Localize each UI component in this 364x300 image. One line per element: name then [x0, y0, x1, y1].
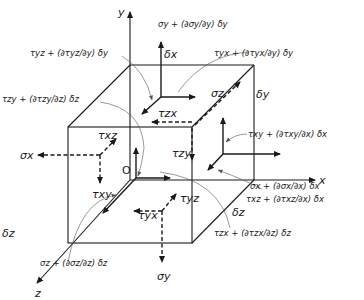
tau-yz-plus-label: τyz + (∂τyz/∂y) δy: [30, 48, 109, 58]
tau-yz-label: τyz: [180, 192, 199, 205]
tau-zy-plus-label: τzy + (∂τzy/∂z) δz: [2, 94, 79, 104]
tau-xy-label: τxy: [92, 188, 112, 201]
origin-label: O: [122, 164, 131, 177]
dx-label: δx: [164, 48, 178, 61]
stress-element-diagram: y x z O δx δy δz δz σx σy σz τxy τxz τyx…: [0, 0, 364, 300]
sigma-y-label: σy: [157, 270, 171, 283]
dy-label: δy: [256, 88, 270, 101]
tau-zy-label: τzy: [172, 147, 191, 160]
tau-zx-label: τzx: [158, 107, 177, 120]
tau-yx-plus-label: τyx + (∂τyx/∂y) δy: [214, 48, 294, 58]
dz-label: δz: [232, 206, 245, 219]
sigma-z-plus-label: σz + (∂σz/∂z) δz: [40, 258, 108, 268]
sigma-x-plus-label: σx + (∂σx/∂x) δx: [250, 181, 321, 191]
tau-xz-label: τxz: [98, 129, 117, 142]
tau-zx-plus-label: τzx + (∂τzx/∂z) δz: [214, 228, 291, 238]
tau-xy-plus-label: τxy + (∂τxy/∂x) δx: [248, 129, 328, 139]
tau-xz-plus-label: τxz + (∂τxz/∂x) δx: [246, 194, 325, 204]
dz-label-left: δz: [2, 227, 15, 240]
sigma-x-label: σx: [20, 149, 34, 162]
sigma-y-plus-label: σy + (∂σy/∂y) δy: [158, 19, 229, 29]
tau-yx-label: τyx: [138, 209, 158, 222]
y-axis-label: y: [117, 6, 125, 19]
sigma-z-label: σz: [211, 87, 224, 100]
z-axis-label: z: [34, 287, 41, 300]
labels: y x z O δx δy δz δz σx σy σz τxy τxz τyx…: [2, 6, 328, 300]
